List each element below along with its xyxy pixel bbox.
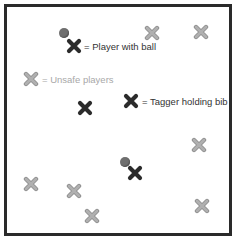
player-with-ball-x-icon [127,165,143,181]
unsafe-player-x-icon [191,137,207,153]
player-with-ball-x-icon [66,38,82,54]
legend-label-tagger-holding-bib: = Tagger holding bib [142,96,228,107]
legend-label-player-with-ball: = Player with ball [84,41,156,52]
tagger-x-icon [77,100,93,116]
unsafe-player-x-icon [194,198,210,214]
unsafe-player-x-icon [84,208,100,224]
legend-label-unsafe-players: = Unsafe players [42,74,114,85]
unsafe-player-x-icon [193,24,209,40]
unsafe-player-x-icon [23,71,39,87]
tagger-x-icon [123,93,139,109]
ball-icon [59,28,69,38]
unsafe-player-x-icon [144,25,160,41]
unsafe-player-x-icon [23,176,39,192]
unsafe-player-x-icon [66,183,82,199]
